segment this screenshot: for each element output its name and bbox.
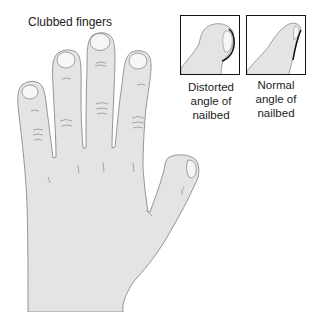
caption-line: nailbed (176, 108, 246, 122)
caption-distorted: Distorted angle of nailbed (176, 80, 246, 122)
clubbed-fingertip-icon (181, 16, 240, 75)
inset-distorted-nailbed (180, 15, 240, 75)
inset-normal-nailbed (246, 15, 306, 75)
caption-line: nailbed (241, 106, 311, 120)
caption-line: Normal (241, 78, 311, 92)
caption-line: angle of (241, 92, 311, 106)
caption-line: Distorted (176, 80, 246, 94)
normal-fingertip-icon (247, 16, 306, 75)
caption-normal: Normal angle of nailbed (241, 78, 311, 120)
caption-line: angle of (176, 94, 246, 108)
